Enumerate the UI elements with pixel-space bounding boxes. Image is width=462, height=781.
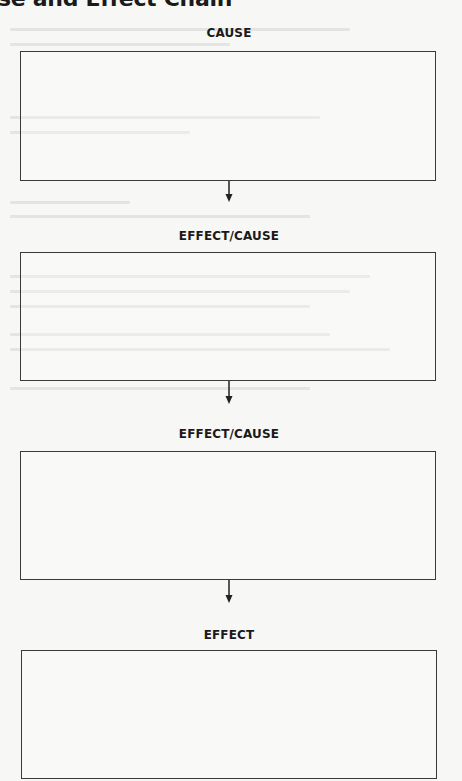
arrow-down-icon [224, 381, 234, 405]
page-title: se and Effect Chain [0, 0, 232, 11]
effect-box[interactable] [21, 650, 437, 779]
effect-cause-box-1[interactable] [20, 252, 436, 381]
effect-cause-label-2: EFFECT/CAUSE [18, 426, 439, 441]
arrow-down-icon [224, 580, 234, 604]
arrow-down-icon [224, 181, 234, 203]
effect-cause-box-2[interactable] [20, 451, 436, 580]
effect-cause-label-1: EFFECT/CAUSE [18, 228, 439, 243]
effect-label: EFFECT [18, 627, 439, 642]
cause-box[interactable] [20, 51, 436, 181]
cause-label: CAUSE [18, 25, 439, 40]
